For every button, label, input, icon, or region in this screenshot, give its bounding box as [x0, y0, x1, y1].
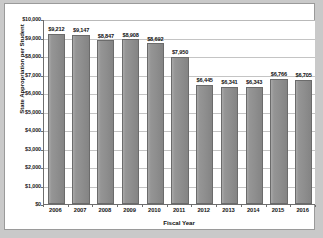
chart-paper: State Appropriation per Student $0$1,000…: [4, 3, 315, 230]
x-axis-tick-mark: [43, 205, 44, 207]
x-axis-title: Fiscal Year: [43, 219, 315, 226]
bar[interactable]: [196, 85, 213, 204]
y-axis-tick-mark: [41, 113, 43, 114]
bar-value-label: $6,705: [290, 73, 318, 79]
y-axis-tick-label: $9,000: [5, 36, 41, 41]
y-axis-tick-label: $3,000: [5, 147, 41, 152]
x-axis-tick-mark: [191, 205, 192, 207]
bar-value-label: $8,692: [141, 37, 169, 43]
y-axis-tick-mark: [41, 76, 43, 77]
bar[interactable]: [122, 39, 139, 204]
bar[interactable]: [295, 80, 312, 204]
y-axis-tick-label: $10,000: [5, 17, 41, 22]
bar[interactable]: [270, 79, 287, 204]
y-axis-tick-label: $0: [5, 202, 41, 207]
gridline: [44, 20, 315, 21]
x-axis-tick-mark: [167, 205, 168, 207]
y-axis-tick-mark: [41, 168, 43, 169]
y-axis-tick-mark: [41, 20, 43, 21]
x-axis-tick-mark: [241, 205, 242, 207]
y-axis-tick-label: $8,000: [5, 54, 41, 59]
bar[interactable]: [48, 34, 65, 204]
y-axis-tick-label: $2,000: [5, 165, 41, 170]
x-axis-tick-mark: [92, 205, 93, 207]
y-axis-tick-label: $5,000: [5, 110, 41, 115]
x-axis-tick-mark: [266, 205, 267, 207]
x-axis-tick-mark: [68, 205, 69, 207]
y-axis-tick-mark: [41, 94, 43, 95]
bar[interactable]: [246, 87, 263, 204]
y-axis-tick-labels: $0$1,000$2,000$3,000$4,000$5,000$6,000$7…: [5, 20, 41, 205]
y-axis-tick-label: $1,000: [5, 184, 41, 189]
bar[interactable]: [221, 87, 238, 204]
y-axis-tick-label: $6,000: [5, 91, 41, 96]
bar[interactable]: [97, 40, 114, 204]
bar-value-label: $6,343: [240, 80, 268, 86]
bar[interactable]: [171, 57, 188, 204]
chart-figure: State Appropriation per Student $0$1,000…: [0, 0, 323, 238]
y-axis-tick-mark: [41, 131, 43, 132]
x-axis-tick-mark: [315, 205, 316, 207]
y-axis-tick-mark: [41, 187, 43, 188]
y-axis-tick-mark: [41, 57, 43, 58]
y-axis-tick-mark: [41, 150, 43, 151]
y-axis-tick-label: $4,000: [5, 128, 41, 133]
y-axis-tick-mark: [41, 205, 43, 206]
y-axis-tick-label: $7,000: [5, 73, 41, 78]
bar-value-label: $7,950: [166, 50, 194, 56]
bar[interactable]: [72, 35, 89, 204]
x-axis-tick-mark: [117, 205, 118, 207]
plot-area: $9,212$9,147$8,847$8,908$8,692$7,950$6,4…: [43, 20, 315, 205]
x-axis-tick-mark: [142, 205, 143, 207]
x-axis-tick-label: 2016: [289, 208, 317, 214]
x-axis-tick-mark: [290, 205, 291, 207]
y-axis-tick-mark: [41, 39, 43, 40]
x-axis-tick-mark: [216, 205, 217, 207]
bar[interactable]: [147, 43, 164, 204]
